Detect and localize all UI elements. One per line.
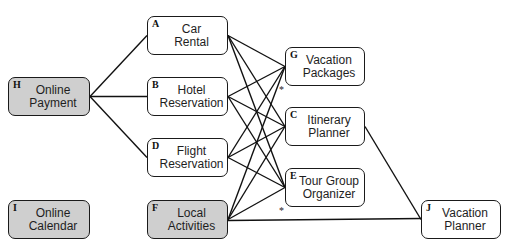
- node-online-calendar[interactable]: I OnlineCalendar: [8, 200, 90, 239]
- node-letter: F: [152, 203, 158, 213]
- node-label: VacationPackages: [291, 54, 360, 80]
- node-car-rental[interactable]: A CarRental: [147, 16, 228, 55]
- node-label: OnlineCalendar: [17, 207, 82, 233]
- node-label: FlightReservation: [147, 145, 227, 171]
- node-letter: B: [152, 80, 159, 90]
- node-label: HotelReservation: [147, 84, 227, 110]
- node-label: Tour GroupOrganizer: [287, 175, 363, 201]
- node-local-activities[interactable]: F LocalActivities: [147, 200, 228, 239]
- asterisk-annotation-e: *: [279, 206, 284, 216]
- edge-a-g: [228, 36, 285, 67]
- node-letter: E: [290, 171, 297, 181]
- node-online-payment[interactable]: H OnlinePayment: [8, 77, 90, 116]
- node-letter: G: [290, 50, 298, 60]
- edge-h-a: [90, 36, 147, 97]
- node-letter: J: [426, 203, 431, 213]
- node-itinerary-planner[interactable]: C ItineraryPlanner: [285, 107, 365, 146]
- edge-f-e: [228, 188, 285, 220]
- node-letter: A: [152, 19, 159, 29]
- node-label: CarRental: [162, 23, 213, 49]
- node-label: OnlinePayment: [17, 84, 80, 110]
- node-letter: C: [290, 110, 297, 120]
- node-label: ItineraryPlanner: [295, 114, 354, 140]
- edge-h-d: [90, 97, 147, 158]
- edge-c-j: [365, 127, 421, 220]
- asterisk-annotation-g: *: [279, 85, 284, 95]
- edge-b-g: [228, 67, 285, 97]
- node-letter: H: [13, 80, 21, 90]
- node-hotel-reservation[interactable]: B HotelReservation: [147, 77, 228, 116]
- node-letter: D: [152, 141, 159, 151]
- node-label: VacationPlanner: [430, 207, 492, 233]
- node-label: LocalActivities: [156, 207, 219, 233]
- node-letter: I: [13, 203, 17, 213]
- node-tour-group-organizer[interactable]: E Tour GroupOrganizer: [285, 168, 365, 207]
- edge-f-j: [228, 219, 421, 221]
- node-flight-reservation[interactable]: D FlightReservation: [147, 138, 228, 177]
- node-vacation-packages[interactable]: G VacationPackages: [285, 47, 365, 86]
- node-vacation-planner[interactable]: J VacationPlanner: [421, 200, 501, 239]
